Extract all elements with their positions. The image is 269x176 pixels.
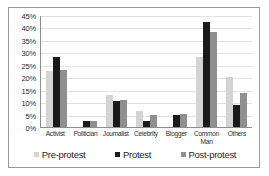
y-axis-tick-label: 35% (22, 36, 36, 45)
bar (136, 111, 143, 127)
bar (226, 77, 233, 127)
x-axis-tick-label: Others (222, 130, 252, 145)
bars-layer (41, 16, 252, 127)
y-axis-tick-label: 10% (22, 99, 36, 108)
bar (46, 71, 53, 127)
bar (113, 101, 120, 127)
bar-group (162, 16, 192, 127)
legend-item[interactable]: Pre-protest (34, 149, 86, 160)
bar (196, 57, 203, 127)
x-axis-tick-label: Common Man (191, 130, 221, 145)
bar-group (41, 16, 71, 127)
bar (143, 121, 150, 127)
bar (233, 105, 240, 127)
legend-swatch-icon (34, 152, 39, 157)
x-axis-tick-label: Journalist (101, 130, 131, 145)
bar (106, 95, 113, 127)
legend-swatch-icon (181, 152, 186, 157)
bar (210, 32, 217, 127)
y-axis-tick-label: 20% (22, 74, 36, 83)
legend-swatch-icon (115, 152, 120, 157)
bar (180, 114, 187, 127)
bar (53, 57, 60, 127)
bar (120, 100, 127, 127)
y-axis-tick-label: 0% (26, 124, 36, 133)
legend-label: Pre-protest (42, 149, 86, 160)
y-axis-tick-label: 40% (22, 24, 36, 33)
bar (203, 22, 210, 127)
y-axis-tick-label: 30% (22, 49, 36, 58)
bar (83, 121, 90, 127)
x-axis-tick-label: Activist (40, 130, 70, 145)
bar-group (71, 16, 101, 127)
x-axis-tick-label: Politician (70, 130, 100, 145)
bar (60, 70, 67, 127)
plot-area (40, 16, 252, 128)
y-axis-tick-label: 45% (22, 12, 36, 21)
bar-group (222, 16, 252, 127)
x-axis-tick-label: Blogger (161, 130, 191, 145)
y-axis: 45%40%35%30%25%20%15%10%5%0% (9, 16, 38, 128)
bar-group (101, 16, 131, 127)
legend-label: Protest (123, 149, 151, 160)
chart-legend: Pre-protestProtestPost-protest (19, 149, 251, 160)
bar (150, 115, 157, 127)
legend-label: Post-protest (189, 149, 237, 160)
bar (173, 115, 180, 127)
y-axis-tick-label: 5% (26, 111, 36, 120)
legend-item[interactable]: Post-protest (181, 149, 237, 160)
y-axis-tick-label: 15% (22, 86, 36, 95)
bar (240, 93, 247, 127)
bar (90, 121, 97, 127)
bar-group (131, 16, 161, 127)
bar-group (192, 16, 222, 127)
legend-item[interactable]: Protest (115, 149, 151, 160)
x-axis-tick-label: Celebrity (131, 130, 161, 145)
y-axis-tick-label: 25% (22, 61, 36, 70)
chart-container: 45%40%35%30%25%20%15%10%5%0% ActivistPol… (8, 7, 260, 168)
x-axis: ActivistPoliticianJournalistCelebrityBlo… (40, 130, 252, 145)
